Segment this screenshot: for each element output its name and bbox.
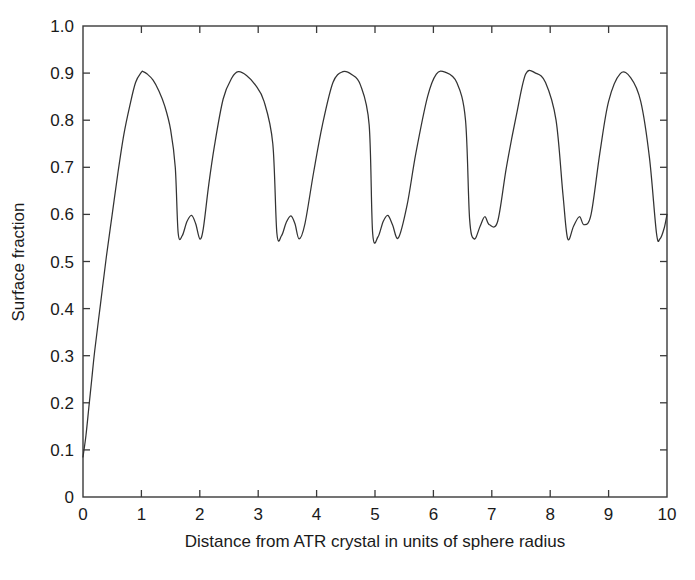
- x-tick-label: 1: [137, 505, 146, 524]
- y-tick-label: 0.8: [50, 111, 74, 130]
- x-tick-label: 7: [487, 505, 496, 524]
- x-tick-label: 0: [78, 505, 87, 524]
- y-tick-label: 0.2: [50, 394, 74, 413]
- x-tick-label: 4: [312, 505, 321, 524]
- y-tick-label: 1.0: [50, 17, 74, 36]
- figure-background: [0, 0, 695, 580]
- y-tick-label: 0.7: [50, 158, 74, 177]
- x-tick-label: 3: [253, 505, 262, 524]
- y-tick-label: 0.4: [50, 300, 74, 319]
- y-axis-title: Surface fraction: [9, 202, 28, 321]
- x-tick-label: 2: [195, 505, 204, 524]
- x-tick-label: 10: [658, 505, 677, 524]
- y-tick-label: 0: [65, 488, 74, 507]
- x-tick-label: 5: [370, 505, 379, 524]
- x-axis-title: Distance from ATR crystal in units of sp…: [185, 532, 565, 551]
- y-tick-label: 0.1: [50, 441, 74, 460]
- x-tick-label: 8: [545, 505, 554, 524]
- x-tick-label: 9: [604, 505, 613, 524]
- figure-page: 012345678910 00.10.20.30.40.50.60.70.80.…: [0, 0, 695, 580]
- y-tick-label: 0.5: [50, 253, 74, 272]
- y-tick-label: 0.6: [50, 205, 74, 224]
- y-tick-label: 0.9: [50, 64, 74, 83]
- y-tick-label: 0.3: [50, 347, 74, 366]
- x-tick-label: 6: [429, 505, 438, 524]
- chart-figure: 012345678910 00.10.20.30.40.50.60.70.80.…: [0, 0, 695, 580]
